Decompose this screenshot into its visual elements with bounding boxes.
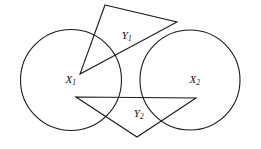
label-x2-subscript: 2 (196, 78, 200, 87)
label-y1-subscript: 1 (128, 34, 132, 43)
label-x1: X1 (46, 73, 89, 87)
label-y2: Y2 (115, 107, 158, 121)
label-x2: X2 (170, 73, 213, 87)
label-y2-subscript: 2 (140, 112, 144, 121)
figure-container: X1 X2 Y1 Y2 (0, 0, 261, 149)
diagram-canvas: X1 X2 Y1 Y2 (0, 0, 261, 149)
label-x1-subscript: 1 (72, 78, 76, 87)
label-y1: Y1 (103, 29, 146, 43)
